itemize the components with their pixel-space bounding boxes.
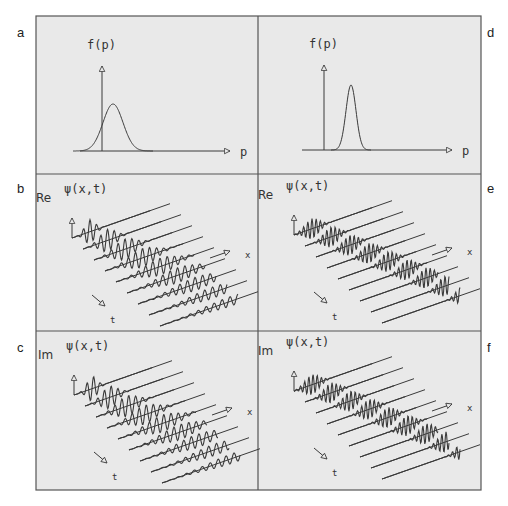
func-label: ψ(x,t) xyxy=(64,182,107,196)
x-axis-label: x xyxy=(467,403,473,413)
x-axis-label: x xyxy=(467,247,473,257)
figure: a b c d e f f(p)pf(p)pReψ(x,t)xtImψ(x,t)… xyxy=(0,0,508,506)
part-label: Im xyxy=(38,348,53,362)
panel-letter-b: b xyxy=(17,181,24,196)
panel-letter-d: d xyxy=(487,25,494,40)
panel-letter-a: a xyxy=(17,25,25,40)
ylabel-fp: f(p) xyxy=(309,37,338,51)
t-axis-label: t xyxy=(332,468,337,478)
t-axis-label: t xyxy=(332,312,337,322)
x-axis-label: x xyxy=(247,407,253,417)
panel-letter-e: e xyxy=(487,181,494,196)
func-label: ψ(x,t) xyxy=(286,179,329,193)
xlabel-p: p xyxy=(240,145,247,159)
panel-letter-f: f xyxy=(487,340,491,355)
panel-letter-c: c xyxy=(17,340,24,355)
t-axis-label: t xyxy=(110,315,115,325)
t-axis-label: t xyxy=(112,472,117,482)
func-label: ψ(x,t) xyxy=(66,339,109,353)
part-label: Re xyxy=(36,191,51,205)
part-label: Im xyxy=(258,344,273,358)
ylabel-fp: f(p) xyxy=(87,38,116,52)
xlabel-p: p xyxy=(462,144,469,158)
func-label: ψ(x,t) xyxy=(286,335,329,349)
x-axis-label: x xyxy=(245,250,251,260)
part-label: Re xyxy=(258,188,273,202)
